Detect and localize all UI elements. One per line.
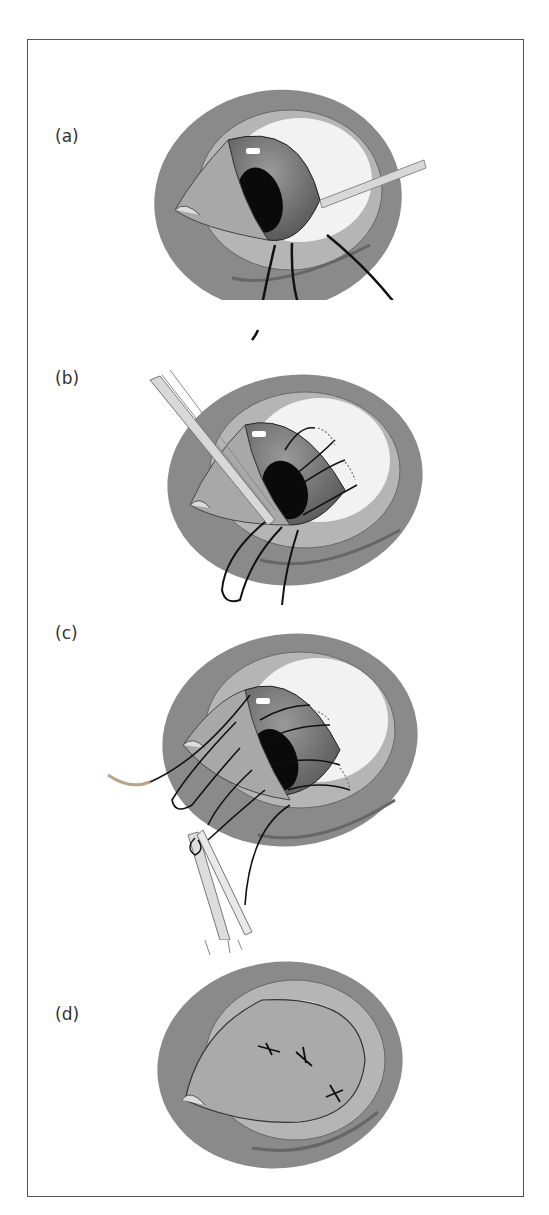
panel-a-illustration xyxy=(0,0,549,300)
panel-b-illustration xyxy=(0,300,549,610)
panel-c-illustration xyxy=(0,610,549,940)
panel-d-illustration xyxy=(0,940,549,1200)
